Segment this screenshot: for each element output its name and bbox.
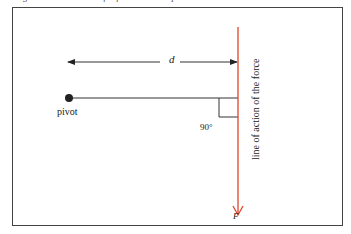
distance-label: d (166, 53, 178, 65)
pivot-label: pivot (57, 106, 78, 117)
line-of-action-label: line of action of the force (250, 59, 261, 160)
pivot-point-icon (65, 94, 73, 102)
angle-label: 90° (200, 122, 213, 132)
force-arrow (233, 27, 243, 215)
right-angle-marker (219, 98, 238, 117)
force-label: F (233, 211, 239, 221)
moment-diagram (0, 0, 351, 234)
